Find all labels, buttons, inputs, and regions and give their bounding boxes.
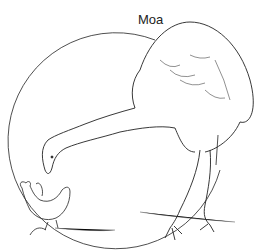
moa-drawing (0, 0, 277, 251)
moa-icon (42, 22, 253, 240)
chicken-icon (20, 182, 70, 235)
ground (55, 212, 235, 231)
scale-circle (8, 33, 220, 249)
